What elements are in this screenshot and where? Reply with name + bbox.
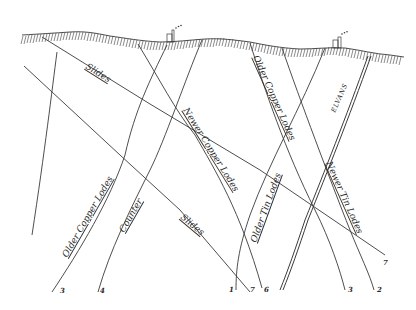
label-elvans: ELVANS [329,82,349,114]
line-number-6: 6 [264,285,269,294]
label-older-copper-lodes-right: Older Copper Lodes [251,54,298,142]
surface-hatching [21,32,401,65]
line-number-7-right: 7 [383,258,388,267]
label-slides-lower: Slides [179,212,207,238]
older-tin-lode-line [236,48,325,290]
left-vertical-line [32,52,57,235]
label-slides-upper: Slides [84,61,113,84]
label-older-copper-lodes-left: Older Copper Lodes [60,174,115,259]
counter-line [98,40,202,292]
newer-copper-lode-line [138,44,262,288]
slide-lower-line [24,66,250,292]
elvan-line-b [283,56,371,290]
line-number-3-right: 3 [348,285,353,294]
line-number-2: 2 [376,285,382,294]
engine-house-icon [333,31,348,48]
engine-house-icon [167,25,182,42]
lodes-cross-section-diagram: Slides Newer Copper Lodes Older Copper L… [0,0,416,310]
line-number-1: 1 [229,285,234,294]
elvan-line-a [280,56,368,290]
line-number-4: 4 [100,286,105,295]
label-counter: Counter [117,196,145,234]
label-newer-copper-lodes: Newer Copper Lodes [181,105,242,194]
label-newer-tin-lodes: Newer Tin Lodes [324,159,365,236]
line-number-3-left: 3 [60,286,65,295]
label-older-tin-lodes: Older Tin Lodes [248,171,283,244]
line-number-7-mid: 7 [250,285,255,294]
